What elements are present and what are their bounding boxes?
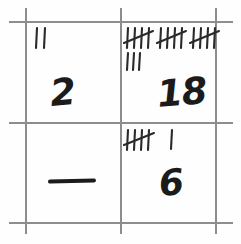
tally-group-of-five xyxy=(124,127,160,153)
tally-group-of-five xyxy=(157,25,190,51)
tally-cell-bottom-right: 6 xyxy=(121,123,215,222)
tally-cell-top-left: 2 xyxy=(26,22,120,122)
tally-marks-top-right-row1 xyxy=(124,25,223,51)
tally-single-group xyxy=(32,26,54,52)
tally-cell-top-right: 18 xyxy=(121,22,215,122)
tally-count-numeral-top-left: 2 xyxy=(48,73,76,112)
tally-single-group xyxy=(124,51,150,75)
tally-count-numeral-bottom-right: 6 xyxy=(157,164,184,202)
tally-single-group xyxy=(160,127,182,153)
tally-chart-sheet: 2 xyxy=(0,0,241,244)
tally-group-of-five xyxy=(124,25,157,51)
tally-cell-bottom-left xyxy=(26,123,120,222)
tally-marks-bottom-right xyxy=(124,127,182,153)
zero-dash-mark xyxy=(48,178,96,183)
tally-marks-top-left xyxy=(32,26,54,52)
tally-marks-top-right-row2 xyxy=(124,51,150,75)
tally-group-of-five xyxy=(190,25,223,51)
tally-count-numeral-top-right: 18 xyxy=(155,72,208,113)
